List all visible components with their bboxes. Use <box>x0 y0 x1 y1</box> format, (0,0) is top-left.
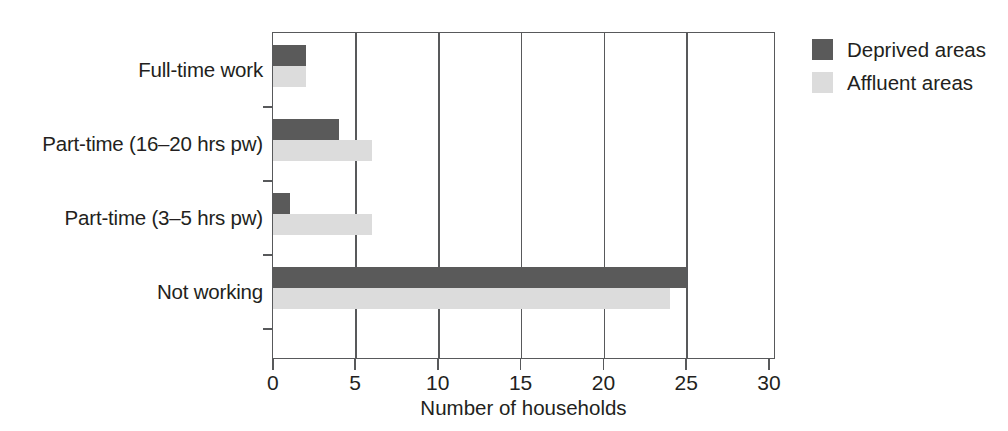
plot-area <box>272 32 775 359</box>
bar-affluent-not-working <box>273 288 670 309</box>
x-axis-label-30: 30 <box>739 371 799 395</box>
gridline-10 <box>438 33 440 358</box>
x-axis-label-15: 15 <box>491 371 551 395</box>
x-axis-label-20: 20 <box>573 371 633 395</box>
bar-deprived-full-time-work <box>273 45 306 66</box>
x-axis-tick-10 <box>437 359 439 370</box>
legend-item-affluent-areas: Affluent areas <box>812 66 1008 99</box>
category-label-full-time-work: Full-time work <box>0 58 263 82</box>
x-axis-tick-15 <box>520 359 522 370</box>
x-axis-tick-20 <box>603 359 605 370</box>
category-label-not-working: Not working <box>0 280 263 304</box>
category-label-part-time-16-20-hrs-pw: Part-time (16–20 hrs pw) <box>0 132 263 156</box>
gridline-25 <box>686 33 688 358</box>
x-axis-tick-0 <box>272 359 274 370</box>
legend: Deprived areas Affluent areas <box>812 33 1008 99</box>
bar-affluent-part-time-3-5-hrs-pw <box>273 214 372 235</box>
bar-affluent-full-time-work <box>273 66 306 87</box>
legend-label-deprived-areas: Deprived areas <box>847 38 986 62</box>
legend-swatch-deprived-areas <box>812 39 833 60</box>
gridline-5 <box>355 33 357 358</box>
x-axis-label-25: 25 <box>656 371 716 395</box>
x-axis-label-5: 5 <box>325 371 385 395</box>
x-axis-tick-25 <box>685 359 687 370</box>
bar-deprived-part-time-16-20-hrs-pw <box>273 119 339 140</box>
bar-chart: Full-time work Part-time (16–20 hrs pw) … <box>0 0 1008 431</box>
x-axis-label-0: 0 <box>243 371 303 395</box>
category-axis-labels: Full-time work Part-time (16–20 hrs pw) … <box>0 0 263 431</box>
x-axis-title: Number of households <box>272 396 775 420</box>
bar-deprived-part-time-3-5-hrs-pw <box>273 193 290 214</box>
legend-swatch-affluent-areas <box>812 72 833 93</box>
legend-label-affluent-areas: Affluent areas <box>847 71 973 95</box>
x-axis-label-10: 10 <box>408 371 468 395</box>
bar-affluent-part-time-16-20-hrs-pw <box>273 140 372 161</box>
gridline-20 <box>604 33 606 358</box>
gridline-15 <box>521 33 523 358</box>
x-axis-tick-5 <box>354 359 356 370</box>
x-axis-tick-30 <box>768 359 770 370</box>
category-label-part-time-3-5-hrs-pw: Part-time (3–5 hrs pw) <box>0 206 263 230</box>
bar-deprived-not-working <box>273 267 686 288</box>
legend-item-deprived-areas: Deprived areas <box>812 33 1008 66</box>
